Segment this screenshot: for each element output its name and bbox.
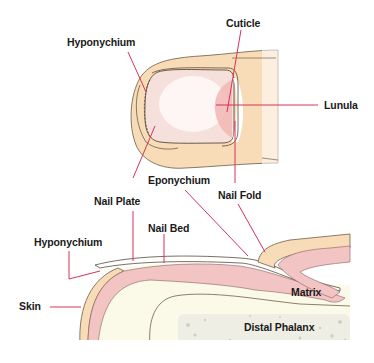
label-lunula: Lunula <box>324 99 358 111</box>
label-cuticle: Cuticle <box>226 17 260 29</box>
label-nail-plate: Nail Plate <box>94 195 140 207</box>
label-hyponychium-bottom: Hyponychium <box>34 236 102 248</box>
label-nail-bed: Nail Bed <box>148 222 189 234</box>
fingertip-top-view <box>131 48 282 168</box>
label-skin: Skin <box>19 300 41 312</box>
nail-cross-section <box>70 234 360 363</box>
label-matrix: Matrix <box>291 286 321 298</box>
label-hyponychium-top: Hyponychium <box>67 36 135 48</box>
label-eponychium: Eponychium <box>148 174 210 186</box>
leader-nail-fold-lower <box>238 204 265 252</box>
label-nail-fold: Nail Fold <box>218 189 261 201</box>
label-distal-phalanx: Distal Phalanx <box>244 321 314 333</box>
